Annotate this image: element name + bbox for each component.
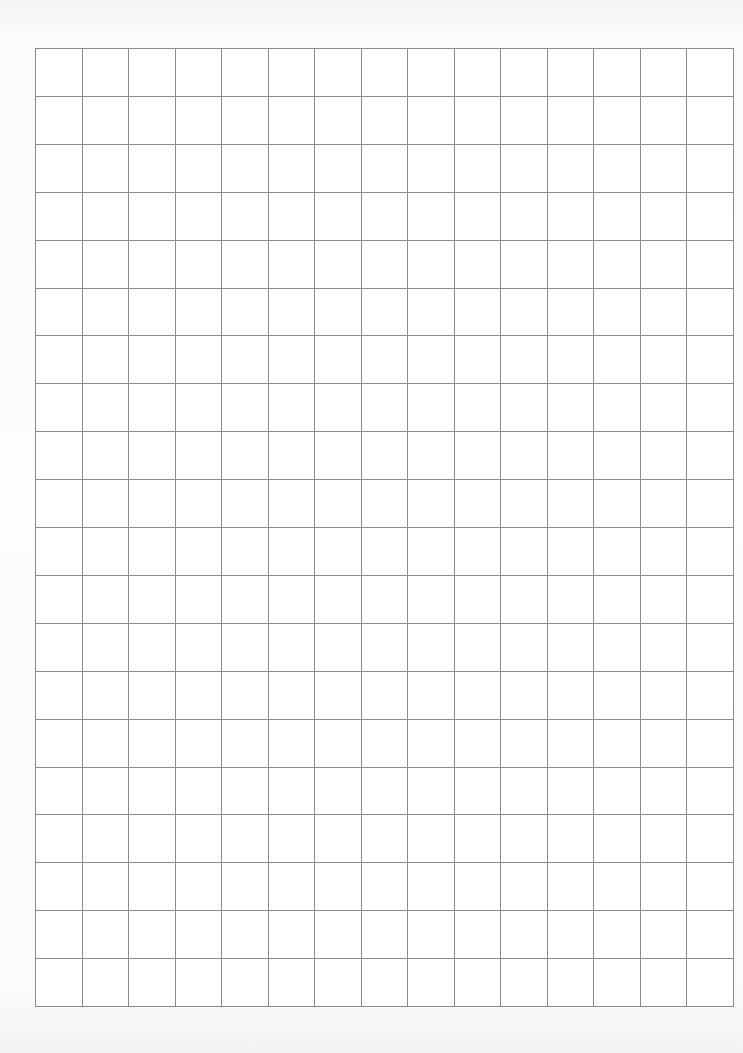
grid-cell [176, 624, 223, 672]
grid-cell [176, 768, 223, 816]
grid-cell [501, 480, 548, 528]
grid-cell [594, 624, 641, 672]
grid-cell [222, 97, 269, 145]
grid-cell [315, 49, 362, 97]
grid-cell [641, 336, 688, 384]
grid-cell [362, 480, 409, 528]
grid-cell [548, 289, 595, 337]
grid-cell [129, 480, 176, 528]
grid-cell [83, 241, 130, 289]
grid-cell [641, 528, 688, 576]
grid-cell [641, 432, 688, 480]
grid-cell [129, 672, 176, 720]
grid-cell [36, 959, 83, 1007]
grid-cell [362, 768, 409, 816]
grid-cell [362, 720, 409, 768]
grid-cell [83, 959, 130, 1007]
grid-cell [315, 959, 362, 1007]
grid-cell [501, 911, 548, 959]
grid-cell [315, 911, 362, 959]
grid-cell [83, 49, 130, 97]
grid-cell [83, 193, 130, 241]
grid-cell [222, 480, 269, 528]
grid-cell [315, 145, 362, 193]
grid-cell [641, 576, 688, 624]
grid-cell [641, 624, 688, 672]
grid-cell [455, 241, 502, 289]
grid-cell [455, 384, 502, 432]
grid-cell [36, 863, 83, 911]
grid-cell [408, 145, 455, 193]
grid-cell [83, 576, 130, 624]
grid-cell [176, 863, 223, 911]
grid-cell [269, 815, 316, 863]
grid-cell [408, 241, 455, 289]
grid-cell [222, 528, 269, 576]
grid-cell [269, 193, 316, 241]
grid-cell [455, 193, 502, 241]
grid-cell [36, 432, 83, 480]
grid-cell [83, 145, 130, 193]
grid-cell [315, 193, 362, 241]
grid-cell [315, 97, 362, 145]
grid-cell [548, 97, 595, 145]
grid-cell [687, 49, 734, 97]
grid-cell [269, 145, 316, 193]
grid-cell [594, 911, 641, 959]
grid-cell [222, 815, 269, 863]
grid-cell [176, 49, 223, 97]
grid-cell [362, 624, 409, 672]
grid-cell [594, 289, 641, 337]
grid-cell [687, 241, 734, 289]
grid-cell [36, 815, 83, 863]
grid-cell [408, 384, 455, 432]
grid-cell [501, 49, 548, 97]
grid-cell [594, 241, 641, 289]
grid-cell [176, 576, 223, 624]
grid-cell [687, 576, 734, 624]
grid-cell [83, 97, 130, 145]
grid-cell [269, 768, 316, 816]
grid-cell [501, 97, 548, 145]
grid-cell [687, 432, 734, 480]
grid-cell [176, 480, 223, 528]
grid-cell [315, 432, 362, 480]
grid-cell [548, 959, 595, 1007]
grid-cell [408, 97, 455, 145]
grid-cell [641, 241, 688, 289]
grid-cell [362, 672, 409, 720]
grid-cell [83, 720, 130, 768]
grid-cell [594, 720, 641, 768]
grid-cell [548, 49, 595, 97]
grid-cell [269, 528, 316, 576]
grid-cell [129, 384, 176, 432]
grid-cell [83, 624, 130, 672]
grid-cell [455, 97, 502, 145]
grid-cell [455, 720, 502, 768]
grid-cell [315, 289, 362, 337]
grid-cell [687, 624, 734, 672]
grid-cell [222, 959, 269, 1007]
grid-cell [594, 576, 641, 624]
grid-cell [129, 432, 176, 480]
grid-cell [408, 815, 455, 863]
grid-cell [687, 959, 734, 1007]
grid-cell [408, 863, 455, 911]
grid-cell [548, 768, 595, 816]
grid-cell [36, 528, 83, 576]
grid-cell [315, 336, 362, 384]
grid-cell [315, 672, 362, 720]
grid-cell [83, 528, 130, 576]
grid-cell [362, 911, 409, 959]
grid-cell [362, 193, 409, 241]
grid-cell [176, 97, 223, 145]
grid-cell [36, 97, 83, 145]
grid-cell [594, 768, 641, 816]
grid-cell [129, 624, 176, 672]
grid-cell [687, 815, 734, 863]
grid-cell [362, 432, 409, 480]
grid-cell [641, 815, 688, 863]
grid-cell [362, 336, 409, 384]
grid-cell [594, 97, 641, 145]
grid-cell [176, 432, 223, 480]
